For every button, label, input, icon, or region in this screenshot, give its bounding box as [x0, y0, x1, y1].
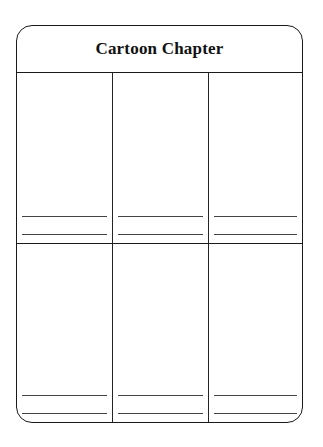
panel-4	[17, 244, 113, 422]
panel-1	[17, 72, 113, 244]
caption-line	[118, 413, 203, 414]
panel-2	[113, 72, 209, 244]
caption-line	[22, 216, 107, 217]
panel-6	[209, 244, 302, 422]
caption-line	[118, 216, 203, 217]
caption-line	[214, 216, 297, 217]
caption-line	[118, 395, 203, 396]
caption-line	[22, 234, 107, 235]
caption-line	[214, 234, 297, 235]
caption-line	[22, 395, 107, 396]
caption-line	[22, 413, 107, 414]
title-band: Cartoon Chapter	[17, 26, 302, 73]
worksheet-frame: Cartoon Chapter	[16, 25, 303, 423]
panel-5	[113, 244, 209, 422]
panel-3	[209, 72, 302, 244]
caption-line	[214, 395, 297, 396]
panel-grid	[17, 72, 302, 422]
caption-line	[118, 234, 203, 235]
worksheet-title: Cartoon Chapter	[95, 39, 223, 59]
caption-line	[214, 413, 297, 414]
